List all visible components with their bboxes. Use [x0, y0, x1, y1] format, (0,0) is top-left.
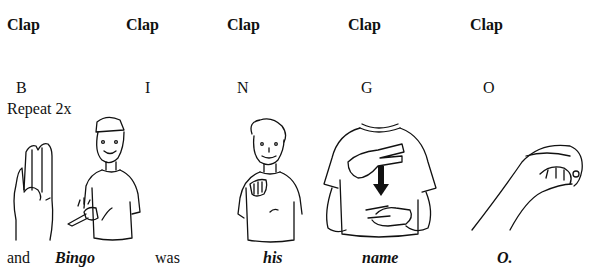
lyric-word-name: name — [362, 249, 398, 267]
letter-i: I — [145, 79, 150, 97]
person-signing-name-illustration — [318, 122, 446, 240]
clap-label-5: Clap — [470, 16, 503, 34]
clap-label-1: Clap — [7, 16, 40, 34]
clap-label-2: Clap — [126, 16, 159, 34]
lyric-word-his: his — [263, 249, 283, 267]
lyric-word-was: was — [155, 249, 180, 267]
letter-b: B — [16, 79, 27, 97]
person-signing-bingo-illustration — [62, 112, 144, 244]
hand-sign-o-illustration — [470, 134, 588, 234]
lyric-word-and: and — [7, 249, 30, 267]
letter-g: G — [361, 79, 373, 97]
letter-o: O — [483, 79, 495, 97]
person-signing-his-illustration — [232, 118, 304, 246]
hand-sign-b-illustration — [10, 140, 60, 245]
lyric-word-bingo: Bingo — [55, 249, 95, 267]
letter-n: N — [237, 79, 249, 97]
clap-label-3: Clap — [227, 16, 260, 34]
lyric-word-o: O. — [497, 249, 513, 267]
clap-label-4: Clap — [348, 16, 381, 34]
